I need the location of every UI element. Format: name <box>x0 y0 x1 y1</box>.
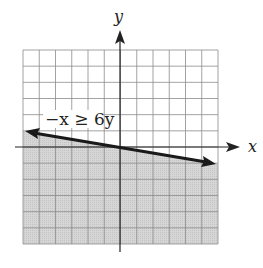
inequality-graph: x y −x ≥ 6y <box>0 0 263 268</box>
inequality-label: −x ≥ 6y <box>45 109 115 129</box>
y-axis-label: y <box>113 7 124 26</box>
x-axis-label: x <box>248 137 257 156</box>
